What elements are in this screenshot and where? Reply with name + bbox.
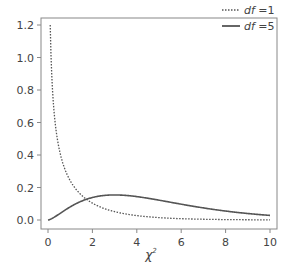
legend-label-df5: df =5 [244, 20, 275, 33]
legend-label-df1: df =1 [244, 4, 275, 17]
y-tick-label: 0.8 [17, 84, 35, 97]
plot-frame [41, 18, 277, 229]
y-tick-label: 0.6 [17, 117, 35, 130]
y-tick-label: 0.4 [17, 149, 35, 162]
y-tick-label: 0.2 [17, 182, 35, 195]
chi-square-density-chart: 0.00.20.40.60.81.01.2 0246810 df =1 df =… [0, 0, 293, 274]
x-tick-label: 2 [89, 236, 96, 249]
x-tick-label: 0 [45, 236, 52, 249]
y-tick-label: 0.0 [17, 214, 35, 227]
x-tick-label: 10 [263, 236, 277, 249]
y-tick-label: 1.0 [17, 52, 35, 65]
x-axis-label: χ2 [144, 247, 157, 262]
y-axis: 0.00.20.40.60.81.01.2 [17, 19, 42, 227]
x-tick-label: 6 [178, 236, 185, 249]
x-tick-label: 4 [133, 236, 140, 249]
x-tick-label: 8 [222, 236, 229, 249]
y-tick-label: 1.2 [17, 19, 35, 32]
x-axis: 0246810 [45, 229, 278, 249]
